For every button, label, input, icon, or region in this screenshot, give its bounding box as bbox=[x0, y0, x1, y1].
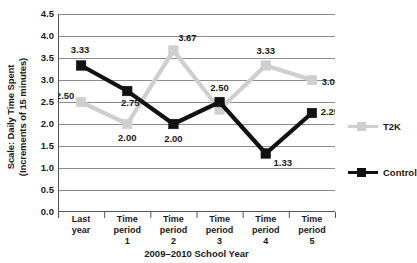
data-labels: 2.502.003.673.333.003.332.752.002.501.33… bbox=[58, 32, 335, 169]
x-axis-category-label-line: Time bbox=[150, 214, 196, 225]
data-label: 1.33 bbox=[274, 157, 293, 168]
x-axis-category-label-line: year bbox=[58, 225, 104, 236]
y-axis-tick-label: 4.0 bbox=[26, 31, 54, 41]
x-axis-category-label-line: 4 bbox=[243, 236, 289, 247]
x-axis-category-label-line: 3 bbox=[197, 236, 243, 247]
x-axis-category-label: Lastyear bbox=[58, 214, 104, 250]
y-axis-tick-label: 1.5 bbox=[26, 141, 54, 151]
legend-label: T2K bbox=[383, 121, 401, 132]
y-axis-tick-label: 3.0 bbox=[26, 75, 54, 85]
x-axis-category-label-line: period bbox=[289, 225, 335, 236]
data-point-marker bbox=[76, 61, 86, 70]
data-point-marker bbox=[169, 119, 179, 129]
y-axis-tick-label: 4.5 bbox=[26, 9, 54, 19]
data-label: 2.00 bbox=[164, 133, 183, 144]
x-axis-category-label: Timeperiod5 bbox=[289, 214, 335, 250]
chart-legend: T2KControl bbox=[348, 118, 416, 210]
legend-swatch-icon bbox=[348, 166, 378, 179]
data-label: 3.33 bbox=[257, 45, 276, 56]
data-label: 2.75 bbox=[121, 97, 140, 108]
x-axis-title: 2009–2010 School Year bbox=[58, 248, 335, 259]
y-axis-tick-label: 3.5 bbox=[26, 53, 54, 63]
data-label: 2.50 bbox=[210, 82, 229, 93]
y-axis-tick-label: 2.5 bbox=[26, 97, 54, 107]
data-point-marker bbox=[169, 46, 179, 56]
chart-canvas: 2.502.003.673.333.003.332.752.002.501.33… bbox=[58, 14, 335, 212]
plot-area: 2.502.003.673.333.003.332.752.002.501.33… bbox=[58, 14, 335, 212]
legend-marker-icon bbox=[357, 168, 366, 177]
legend-item[interactable]: T2K bbox=[348, 118, 416, 134]
data-point-marker bbox=[307, 108, 317, 118]
data-point-marker bbox=[123, 119, 133, 129]
data-label: 2.00 bbox=[118, 132, 137, 143]
x-axis-category-label-line: Last bbox=[58, 214, 104, 225]
y-axis-tick-label: 1.0 bbox=[26, 163, 54, 173]
data-point-marker bbox=[123, 86, 133, 96]
y-axis-tick-labels: 4.54.03.53.02.52.01.51.00.50.0 bbox=[26, 0, 54, 263]
x-axis-category-label-line: period bbox=[104, 225, 150, 236]
x-axis-category-label-line: 1 bbox=[104, 236, 150, 247]
data-label: 3.67 bbox=[178, 32, 197, 43]
data-point-marker bbox=[261, 149, 271, 159]
data-label: 2.25 bbox=[321, 106, 335, 117]
data-label: 2.50 bbox=[58, 90, 74, 101]
x-axis-category-label: Timeperiod3 bbox=[197, 214, 243, 250]
x-axis-category-label-line: Time bbox=[104, 214, 150, 225]
legend-marker-icon bbox=[357, 122, 366, 131]
legend-label: Control bbox=[383, 167, 417, 178]
data-point-marker bbox=[307, 75, 317, 85]
x-axis-category-label-line: Time bbox=[243, 214, 289, 225]
data-label: 3.33 bbox=[71, 44, 90, 55]
x-axis-category-label-line: 5 bbox=[289, 236, 335, 247]
x-axis-category-label-line: period bbox=[243, 225, 289, 236]
y-axis-tick-label: 0.0 bbox=[26, 207, 54, 217]
legend-item[interactable]: Control bbox=[348, 164, 416, 180]
x-axis-category-label-line: period bbox=[197, 225, 243, 236]
x-axis-category-label: Timeperiod1 bbox=[104, 214, 150, 250]
x-axis-tick-labels: LastyearTimeperiod1Timeperiod2Timeperiod… bbox=[58, 214, 335, 250]
x-axis-category-label-line: Time bbox=[289, 214, 335, 225]
series-control bbox=[76, 61, 316, 159]
x-axis-category-label: Timeperiod4 bbox=[243, 214, 289, 250]
x-axis-category-label-line: period bbox=[150, 225, 196, 236]
x-axis-category-label: Timeperiod2 bbox=[150, 214, 196, 250]
data-point-marker bbox=[261, 61, 271, 70]
data-point-marker bbox=[76, 97, 86, 107]
data-point-marker bbox=[215, 97, 225, 107]
legend-swatch-icon bbox=[348, 120, 378, 133]
x-axis-category-label-line: 2 bbox=[150, 236, 196, 247]
x-axis-category-label-line: Time bbox=[197, 214, 243, 225]
y-axis-title-line-1: Scale: Daily Time Spent bbox=[5, 11, 17, 223]
y-axis-tick-label: 0.5 bbox=[26, 185, 54, 195]
y-axis-tick-label: 2.0 bbox=[26, 119, 54, 129]
data-label: 3.00 bbox=[322, 76, 335, 87]
